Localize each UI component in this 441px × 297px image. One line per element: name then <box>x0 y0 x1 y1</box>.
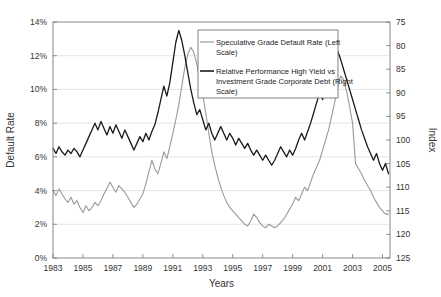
chart-container: 0%2%4%6%8%10%12%14%758085909510010511011… <box>0 0 441 297</box>
right-axis-tick-label: 115 <box>396 206 410 216</box>
right-axis-tick-label: 80 <box>396 41 406 51</box>
x-axis-tick-label: 1993 <box>193 263 212 273</box>
x-axis-tick-label: 1997 <box>253 263 272 273</box>
left-axis-tick-label: 0% <box>35 253 48 263</box>
x-axis-tick-label: 2001 <box>313 263 332 273</box>
x-axis-tick-label: 1991 <box>163 263 182 273</box>
right-axis-tick-label: 85 <box>396 64 406 74</box>
right-axis-tick-label: 90 <box>396 88 406 98</box>
left-axis-tick-label: 10% <box>30 84 47 94</box>
x-axis-tick-label: 1995 <box>223 263 242 273</box>
default-rate-index-chart: 0%2%4%6%8%10%12%14%758085909510010511011… <box>0 0 441 297</box>
left-axis-tick-label: 14% <box>30 17 47 27</box>
right-axis-tick-label: 110 <box>396 182 410 192</box>
right-axis-tick-label: 105 <box>396 159 410 169</box>
right-axis-tick-label: 125 <box>396 253 410 263</box>
left-axis-tick-label: 4% <box>35 186 48 196</box>
legend-label-relative-performance-high-yield-line3: Scale) <box>216 87 238 96</box>
right-axis-title: Index <box>427 128 438 152</box>
left-axis-tick-label: 6% <box>35 152 48 162</box>
legend-label-relative-performance-high-yield-line2: Investment Grade Corporate Debt (Right <box>216 77 354 86</box>
left-axis-tick-label: 8% <box>35 118 48 128</box>
x-axis-title: Years <box>209 278 234 289</box>
x-axis-tick-label: 2005 <box>373 263 392 273</box>
legend-label-speculative-grade-default-rate-line2: Scale) <box>216 48 238 57</box>
x-axis-tick-label: 2003 <box>343 263 362 273</box>
x-axis: 1983198519871989199119931995199719992001… <box>44 254 393 273</box>
left-axis-tick-label: 2% <box>35 219 48 229</box>
right-axis-tick-label: 75 <box>396 17 406 27</box>
x-axis-tick-label: 1983 <box>44 263 63 273</box>
legend-label-relative-performance-high-yield: Relative Performance High Yield vs <box>216 67 335 76</box>
x-axis-tick-label: 1987 <box>103 263 122 273</box>
right-axis-tick-label: 95 <box>396 111 406 121</box>
right-axis-tick-label: 100 <box>396 135 410 145</box>
x-axis-tick-label: 1985 <box>73 263 92 273</box>
legend-label-speculative-grade-default-rate: Speculative Grade Default Rate (Left <box>216 38 341 47</box>
x-axis-tick-label: 1989 <box>133 263 152 273</box>
left-axis-tick-label: 12% <box>30 51 47 61</box>
y-axis-title: Default Rate <box>5 112 16 168</box>
x-axis-tick-label: 1999 <box>283 263 302 273</box>
right-axis-tick-label: 120 <box>396 229 410 239</box>
legend: Speculative Grade Default Rate (LeftScal… <box>198 30 354 98</box>
